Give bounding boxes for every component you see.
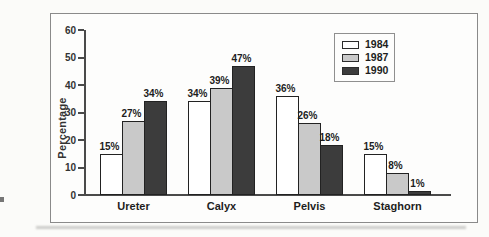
scanned-figure-page: Percentage 0102030405060 15%27%34%34%39%…	[0, 0, 489, 237]
bar-1990-pelvis	[320, 145, 343, 195]
y-axis-tick	[78, 57, 84, 59]
bar-value-label-1984-pelvis: 36%	[264, 82, 307, 95]
legend-swatch-1984	[342, 41, 359, 49]
legend-item-1990: 1990	[342, 65, 394, 76]
legend-swatch-1990	[342, 67, 359, 75]
bar-value-label-1990-calyx: 47%	[220, 52, 263, 65]
y-axis-tick-label: 40	[50, 79, 76, 92]
scan-shadow	[36, 226, 466, 229]
y-axis-tick	[78, 194, 84, 196]
x-category-label-pelvis: Pelvis	[260, 200, 359, 212]
legend-item-label-1984: 1984	[365, 39, 388, 50]
y-axis-tick	[78, 139, 84, 141]
x-category-label-ureter: Ureter	[84, 200, 183, 212]
legend-item-1987: 1987	[342, 52, 394, 63]
y-axis-line	[84, 30, 86, 196]
bar-1990-ureter	[144, 101, 167, 195]
page-edge-mark	[0, 197, 4, 202]
bar-value-label-1990-pelvis: 18%	[308, 131, 351, 144]
bar-value-label-1984-staghorn: 15%	[352, 140, 395, 153]
y-axis-tick-label: 50	[50, 51, 76, 64]
bar-value-label-1990-staghorn: 1%	[396, 177, 439, 190]
y-axis-tick	[78, 29, 84, 31]
legend-rows: 198419871990	[342, 39, 394, 76]
legend-item-1984: 1984	[342, 39, 394, 50]
bar-1987-calyx	[210, 88, 233, 195]
y-axis-tick-label: 20	[50, 134, 76, 147]
bar-value-label-1987-staghorn: 8%	[374, 159, 417, 172]
legend-item-label-1987: 1987	[365, 52, 388, 63]
y-axis-tick-label: 0	[50, 189, 76, 202]
y-axis-tick	[78, 167, 84, 169]
bar-value-label-1990-ureter: 34%	[132, 87, 175, 100]
legend-swatch-1987	[342, 54, 359, 62]
x-category-label-staghorn: Staghorn	[348, 200, 447, 212]
bar-1990-calyx	[232, 66, 255, 195]
bar-1987-ureter	[122, 121, 145, 195]
legend: 198419871990	[334, 33, 395, 82]
bar-1990-staghorn	[408, 191, 431, 195]
bar-1984-ureter	[100, 154, 123, 195]
x-category-label-calyx: Calyx	[172, 200, 271, 212]
bar-value-label-1987-pelvis: 26%	[286, 109, 329, 122]
legend-item-label-1990: 1990	[365, 65, 388, 76]
y-axis-tick	[78, 112, 84, 114]
y-axis-tick	[78, 84, 84, 86]
y-axis-tick-label: 30	[50, 106, 76, 119]
bar-1984-calyx	[188, 101, 211, 195]
y-axis-tick-label: 60	[50, 24, 76, 37]
y-axis-tick-label: 10	[50, 161, 76, 174]
